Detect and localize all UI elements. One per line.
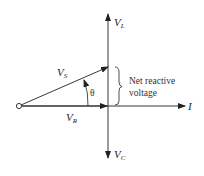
phasor-diagram: VL VC VS VR I θ Net reactive voltage (0, 0, 204, 176)
net-reactive-label-line1: Net reactive (129, 76, 175, 86)
vr-label: VR (66, 111, 78, 125)
vs-label: VS (57, 66, 68, 80)
current-label: I (187, 100, 193, 112)
origin-point (16, 103, 21, 108)
theta-arc (84, 80, 88, 106)
brace-icon (115, 67, 122, 105)
theta-label: θ (90, 88, 95, 98)
vl-label: VL (114, 16, 125, 30)
vc-label: VC (114, 148, 126, 162)
net-reactive-label-line2: voltage (129, 88, 157, 98)
